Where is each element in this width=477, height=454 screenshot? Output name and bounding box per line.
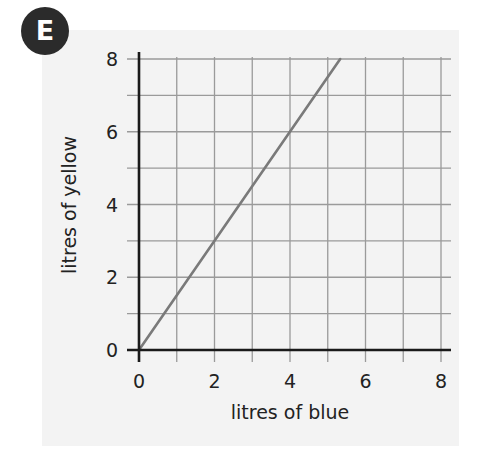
y-tick-label: 8 [106,48,118,70]
y-axis-label: litres of yellow [58,136,80,274]
y-tick-labels: 02468 [106,48,118,361]
line-chart: 02468 02468 litres of blue litres of yel… [0,0,477,454]
x-tick-label: 8 [435,370,447,392]
x-tick-labels: 02468 [133,370,447,392]
y-tick-label: 0 [106,339,118,361]
y-tick-label: 6 [106,121,118,143]
x-tick-label: 4 [284,370,296,392]
x-tick-label: 6 [359,370,371,392]
y-tick-label: 4 [106,194,118,216]
x-tick-label: 2 [208,370,220,392]
axes [127,52,451,362]
grid-lines [127,57,451,362]
x-tick-label: 0 [133,370,145,392]
y-tick-label: 2 [106,266,118,288]
x-axis-label: litres of blue [231,401,349,423]
